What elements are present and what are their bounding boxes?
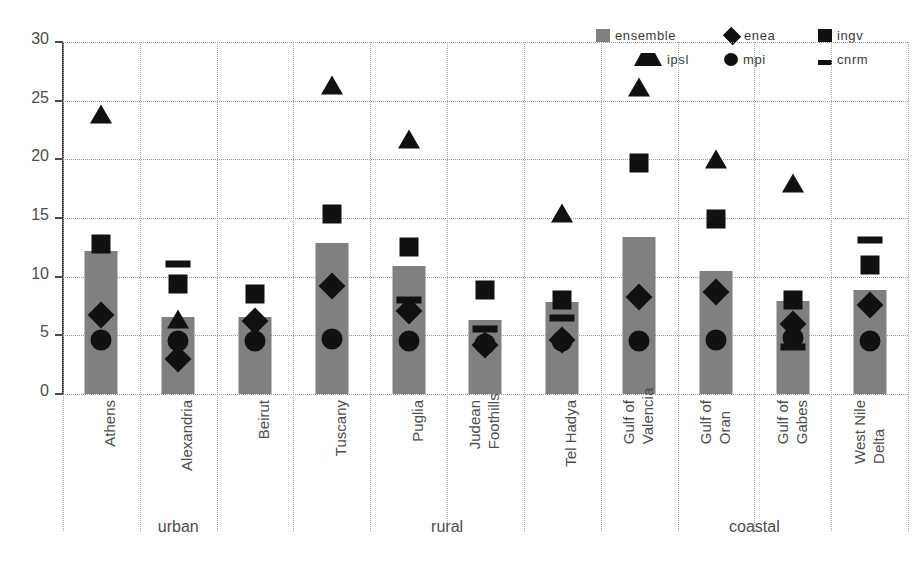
y-axis-tick-mark — [55, 41, 63, 43]
y-axis-tick-label: 30 — [31, 31, 49, 47]
x-axis-label: Athens — [63, 400, 140, 500]
x-axis-label: Alexandria — [140, 400, 217, 500]
chart-root: ensembleeneaingvipslmpicnrm 302520151050… — [0, 0, 915, 573]
x-axis-label-text-line2: Delta — [870, 429, 887, 464]
legend-label: enea — [744, 28, 775, 43]
x-axis-label-text: JudeanFoothills — [466, 400, 483, 449]
x-axis-label-text-line2: Foothills — [485, 393, 502, 449]
legend-swatch-ingv-icon — [818, 29, 832, 42]
x-axis-label-text: West NileDelta — [851, 400, 868, 464]
legend-item-enea[interactable]: enea — [724, 28, 775, 43]
x-axis-label-text: Gulf ofValencia — [620, 400, 637, 444]
x-axis-label: Tuscany — [293, 400, 370, 500]
x-axis-label-text-line2: Gabes — [793, 400, 810, 444]
x-axis-label-text: Alexandria — [178, 400, 195, 471]
x-axis-label-text: Gulf ofOran — [697, 400, 714, 444]
y-axis-tick-mark — [55, 100, 63, 102]
x-axis-label: West NileDelta — [831, 400, 908, 500]
x-axis-label: Puglia — [370, 400, 447, 500]
x-axis-label-text-line2: Valencia — [639, 388, 656, 444]
x-axis-label-text-line2: Oran — [716, 411, 733, 444]
x-axis-label-text: Tel Hadya — [562, 400, 579, 467]
x-axis-group-label: rural — [293, 518, 600, 536]
y-axis-tick-label: 5 — [40, 324, 49, 340]
legend-label: ingv — [837, 28, 863, 43]
y-axis-tick-label: 20 — [31, 148, 49, 164]
y-axis-tick-label: 15 — [31, 207, 49, 223]
y-axis-tick-label: 0 — [40, 383, 49, 399]
x-axis-label: Gulf ofGabes — [754, 400, 831, 500]
y-axis-tick-label: 25 — [31, 90, 49, 106]
x-axis-group-label: coastal — [601, 518, 908, 536]
x-axis-label: JudeanFoothills — [447, 400, 524, 500]
x-axis-group-label: urban — [63, 518, 293, 536]
y-axis-tick-label: 10 — [31, 266, 49, 282]
y-axis-tick-mark — [55, 158, 63, 160]
x-axis-label-text: Gulf ofGabes — [774, 400, 791, 444]
y-axis-tick-mark — [55, 393, 63, 395]
y-axis-tick-mark — [55, 334, 63, 336]
x-axis-label: Tel Hadya — [524, 400, 601, 500]
y-axis-tick-mark — [55, 217, 63, 219]
legend-item-ingv[interactable]: ingv — [818, 28, 863, 43]
x-axis-label: Gulf ofValencia — [601, 400, 678, 500]
x-axis-label-text: Puglia — [409, 400, 426, 442]
legend-item-ensemble[interactable]: ensemble — [596, 28, 676, 43]
legend-label: ensemble — [615, 28, 676, 43]
x-axis-label-text: Beirut — [255, 400, 272, 439]
y-axis-tick-mark — [55, 276, 63, 278]
legend-swatch-ensemble-icon — [596, 29, 610, 42]
vertical-gridline — [908, 42, 909, 531]
x-axis-label: Gulf ofOran — [678, 400, 755, 500]
x-axis-label: Beirut — [217, 400, 294, 500]
x-axis-label-text: Athens — [101, 400, 118, 447]
x-axis-label-text: Tuscany — [332, 400, 349, 456]
